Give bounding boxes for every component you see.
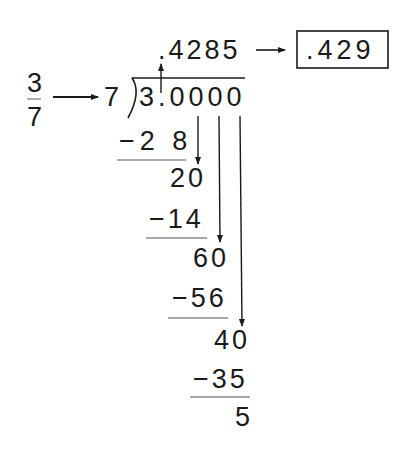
dividend: 3.0000 xyxy=(139,84,246,111)
quotient: .4285 xyxy=(158,37,241,64)
remainder-20: 20 xyxy=(170,165,206,192)
bring-down-arrow-2 xyxy=(219,116,220,242)
fraction-denominator: 7 xyxy=(27,104,42,131)
division-bracket xyxy=(128,78,136,118)
remainder-60: 60 xyxy=(193,245,229,272)
bring-down-arrow-3 xyxy=(240,116,242,326)
subtract-28: −2 8 xyxy=(119,128,192,155)
rounded-result: .429 xyxy=(306,37,375,64)
subtract-56: −56 xyxy=(172,285,227,312)
fraction-numerator: 3 xyxy=(27,70,42,97)
remainder-40: 40 xyxy=(214,327,250,354)
remainder-5: 5 xyxy=(235,404,253,431)
divisor: 7 xyxy=(104,84,119,111)
subtract-14: −14 xyxy=(149,206,204,233)
subtract-35: −35 xyxy=(193,366,248,393)
